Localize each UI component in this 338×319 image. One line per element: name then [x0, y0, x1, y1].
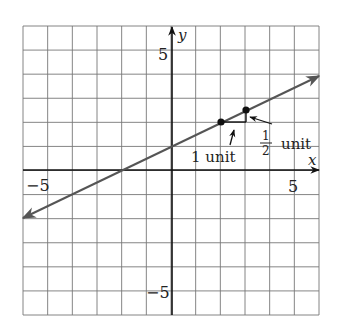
y-tick-neg5: −5 — [146, 283, 170, 302]
y-axis-label: y — [177, 26, 187, 44]
run-pointer-arrow — [230, 130, 234, 145]
x-tick-pos5: 5 — [288, 177, 298, 196]
rise-label-denominator: 2 — [262, 144, 270, 158]
point-2-2 — [217, 118, 224, 125]
point-3-2.5 — [242, 106, 249, 113]
run-label: 1 unit — [191, 148, 235, 166]
y-tick-pos5: 5 — [158, 45, 168, 64]
coordinate-plane: x y −5 5 5 −5 1 unit 1 2 unit — [0, 0, 338, 319]
rise-label-unit: unit — [281, 135, 311, 153]
x-tick-neg5: −5 — [26, 176, 50, 195]
rise-pointer-arrow — [250, 117, 272, 124]
rise-label-numerator: 1 — [262, 129, 270, 143]
x-axis-label: x — [308, 151, 317, 169]
